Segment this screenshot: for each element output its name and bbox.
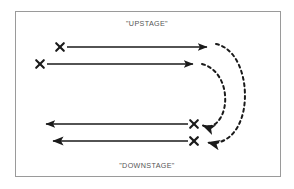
diagram-vector-layer — [0, 0, 294, 189]
x-mark-downstage-upper — [190, 120, 198, 128]
x-mark-upstage-upper — [56, 43, 64, 51]
dashed-arc-inner — [202, 64, 225, 126]
dashed-arc-outer — [208, 44, 245, 143]
x-mark-downstage-lower — [190, 137, 198, 145]
stage-blocking-diagram: "UPSTAGE" "DOWNSTAGE" — [0, 0, 294, 189]
x-mark-upstage-lower — [36, 60, 44, 68]
